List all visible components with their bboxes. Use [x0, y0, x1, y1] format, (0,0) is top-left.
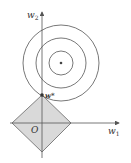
x-axis-label: w1 — [108, 126, 120, 137]
origin-label: O — [31, 125, 39, 135]
l1-constraint-diamond — [12, 95, 71, 152]
l1-regularization-diagram: w2 w1 O w* — [0, 0, 131, 163]
optimum-label: w* — [45, 91, 55, 100]
loss-minimum-point — [60, 62, 63, 65]
optimum-point — [40, 93, 44, 97]
y-axis-label: w2 — [27, 10, 39, 21]
